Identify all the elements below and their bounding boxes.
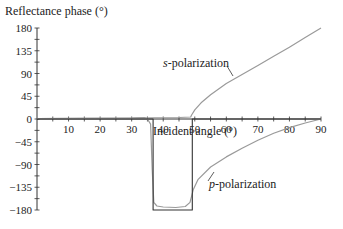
x-tick-label: 10 [63, 123, 75, 135]
x-tick-label: 70 [252, 123, 264, 135]
x-tick-label: 90 [316, 123, 328, 135]
p-polarization-annotation: p-polarization [208, 172, 276, 191]
x-tick-label: 30 [126, 123, 138, 135]
x-axis-title: Incident angle (°) [153, 124, 237, 138]
s-polarization-annotation: s-polarization [163, 56, 233, 76]
y-tick-label: 135 [16, 45, 33, 57]
p-polarization-label: p-polarization [208, 177, 276, 191]
y-axis: 18013590450−45−90−135−180 [9, 22, 39, 216]
y-tick-label: 0 [27, 113, 33, 125]
y-tick-label: 180 [16, 22, 33, 34]
y-tick-label: −90 [15, 159, 33, 171]
y-tick-label: −180 [9, 204, 32, 216]
y-axis-title: Reflectance phase (°) [5, 4, 108, 18]
y-tick-label: 45 [21, 90, 33, 102]
reflectance-phase-chart: Reflectance phase (°) 18013590450−45−90−… [0, 0, 343, 229]
y-tick-label: 90 [21, 68, 33, 80]
y-tick-label: −45 [15, 136, 33, 148]
series-line-s-polarization [37, 28, 321, 119]
s-polarization-label: s-polarization [163, 56, 229, 70]
x-tick-label: 20 [95, 123, 107, 135]
y-tick-label: −135 [9, 181, 32, 193]
